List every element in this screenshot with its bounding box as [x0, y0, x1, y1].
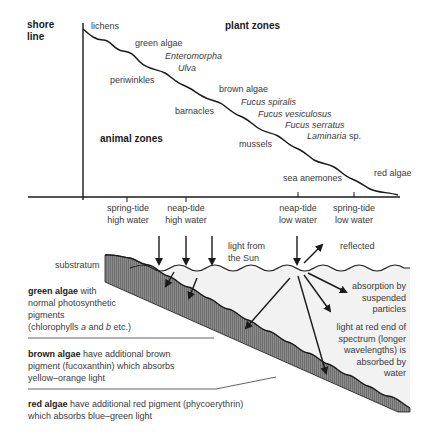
red-end-absorbed-label: light at red end of spectrum (longer wav… [320, 322, 406, 380]
desc-text: etc.) [111, 322, 131, 332]
tide-text: spring-tide [102, 203, 154, 215]
red-end-text: spectrum (longer [320, 334, 406, 346]
arrow-reflected [304, 245, 322, 263]
tide-spring-high: spring-tide high water [102, 203, 154, 226]
red-end-text: light at red end of [320, 322, 406, 334]
plant-label-laminaria: Laminaria sp. [307, 131, 361, 143]
light-from-sun-label: light from the Sun [228, 241, 265, 264]
tide-text: neap-tide [272, 203, 324, 215]
tide-text: low water [272, 215, 324, 227]
red-end-text: absorbed by [320, 357, 406, 369]
animal-zones-heading: animal zones [100, 133, 163, 145]
red-algae-term: red algae [28, 399, 68, 409]
desc-text: yellow–orange light [28, 372, 175, 384]
red-end-text: wavelengths) is [320, 345, 406, 357]
plant-label-fucus-vesiculosus: Fucus vesiculosus [258, 109, 332, 121]
absorption-label: absorption by suspended particles [330, 281, 406, 316]
plant-label-green-algae: green algae [135, 38, 183, 50]
absorption-text: particles [330, 304, 406, 316]
desc-text: have additional brown [81, 349, 171, 359]
laminaria-suffix: sp. [347, 131, 362, 141]
substratum-label: substratum [55, 260, 100, 272]
desc-text: with [78, 286, 97, 296]
desc-text: and [86, 322, 106, 332]
sun-text-1: light from [228, 241, 265, 253]
absorption-text: absorption by [330, 281, 406, 293]
desc-text: which absorbs blue–green light [28, 410, 243, 422]
green-algae-description: green algae with normal photosynthetic p… [28, 285, 131, 333]
plant-label-fucus-spiralis: Fucus spiralis [241, 97, 296, 109]
brown-algae-term: brown algae [28, 349, 81, 359]
red-algae-description: red algae have additional red pigment (p… [28, 398, 243, 422]
animal-label-mussels: mussels [239, 139, 272, 151]
green-algae-term: green algae [28, 286, 78, 296]
shore-line-text-1: shore [27, 19, 54, 31]
plant-label-lichens: lichens [91, 21, 119, 33]
plant-zones-heading: plant zones [225, 20, 280, 32]
red-end-text: water [320, 368, 406, 380]
desc-text: pigments [28, 309, 131, 321]
reflected-label: reflected [340, 241, 375, 253]
absorption-text: suspended [330, 293, 406, 305]
tide-text: neap-tide [160, 203, 212, 215]
desc-text: pigment (fucoxanthin) which absorbs [28, 360, 175, 372]
tide-text: high water [102, 215, 154, 227]
tide-neap-low: neap-tide low water [272, 203, 324, 226]
animal-label-periwinkles: periwinkles [110, 75, 155, 87]
plant-label-ulva: Ulva [178, 63, 196, 75]
tide-text: spring-tide [328, 203, 380, 215]
laminaria-genus: Laminaria [307, 131, 347, 141]
shore-line-text-2: line [27, 31, 54, 43]
tide-spring-low: spring-tide low water [328, 203, 380, 226]
desc-text: have additional red pigment (phycoerythr… [68, 399, 244, 409]
shore-line-label: shore line [27, 19, 54, 43]
tide-text: low water [328, 215, 380, 227]
desc-text: (chlorophylls [28, 322, 81, 332]
tide-text: high water [160, 215, 212, 227]
desc-text: normal photosynthetic [28, 297, 131, 309]
sun-text-2: the Sun [228, 253, 265, 265]
animal-label-sea-anemones: sea anemones [283, 173, 342, 185]
brown-algae-description: brown algae have additional brown pigmen… [28, 348, 175, 384]
plant-label-red-algae: red algae [374, 168, 412, 180]
tide-neap-high: neap-tide high water [160, 203, 212, 226]
plant-label-fucus-serratus: Fucus serratus [285, 120, 345, 132]
animal-label-barnacles: barnacles [175, 106, 214, 118]
zonation-wavy-line [83, 29, 398, 195]
plant-label-brown-algae: brown algae [219, 84, 268, 96]
plant-label-enteromorpha: Enteromorpha [165, 51, 222, 63]
